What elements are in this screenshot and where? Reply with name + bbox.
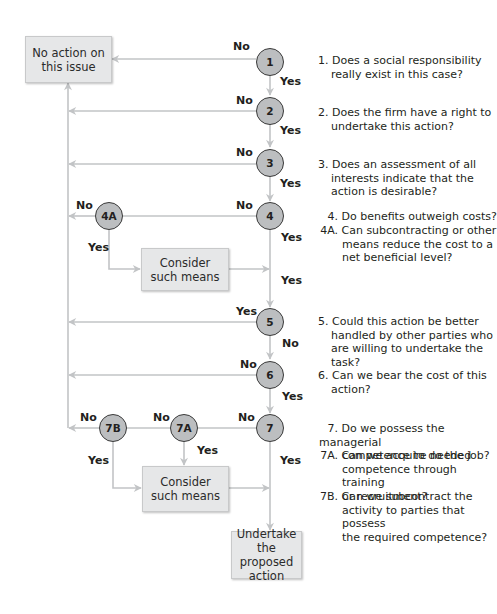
no-action-line-2: this issue bbox=[32, 60, 105, 74]
undertake-line-3: action bbox=[232, 569, 301, 583]
edge-label-3-yes: Yes bbox=[280, 177, 301, 190]
decision-node-5: 5 bbox=[256, 308, 284, 336]
edge-label-7b-no: No bbox=[80, 411, 97, 424]
decision-node-2: 2 bbox=[256, 97, 284, 125]
edge-label-3-no: No bbox=[236, 146, 253, 159]
question-7b: 7B. Can we subcontract the activity to p… bbox=[312, 490, 497, 544]
edge-label-6-yes: Yes bbox=[282, 390, 303, 403]
decision-node-1: 1 bbox=[256, 48, 284, 76]
edge-label-2-no: No bbox=[236, 94, 253, 107]
edge-label-5-no: No bbox=[282, 337, 299, 350]
no-action-box: No action on this issue bbox=[25, 36, 112, 83]
edge-label-7a-no: No bbox=[153, 411, 170, 424]
question-5: 5. Could this action be better handled b… bbox=[318, 315, 493, 369]
question-1: 1. Does a social responsibility really e… bbox=[318, 54, 482, 81]
edge-label-7a-yes: Yes bbox=[197, 444, 218, 457]
undertake-line-1: Undertake bbox=[232, 527, 301, 541]
decision-node-7: 7 bbox=[256, 414, 284, 442]
consider-means-box-2: Consider such means bbox=[142, 466, 229, 512]
decision-node-6: 6 bbox=[256, 361, 284, 389]
decision-node-4a: 4A bbox=[95, 202, 123, 230]
decision-node-7b: 7B bbox=[99, 414, 127, 442]
edge-label-2-yes: Yes bbox=[280, 124, 301, 137]
edge-label-4a-yes: Yes bbox=[88, 241, 109, 254]
question-6: 6. Can we bear the cost of this action? bbox=[318, 369, 487, 396]
question-4: 4. Do benefits outweigh costs? bbox=[319, 210, 497, 224]
edge-label-4-yes: Yes bbox=[281, 231, 302, 244]
edge-label-consider-1-yes: Yes bbox=[281, 274, 302, 287]
decision-node-3: 3 bbox=[256, 149, 284, 177]
undertake-line-2: the proposed bbox=[232, 541, 301, 569]
edge-label-1-yes: Yes bbox=[280, 75, 301, 88]
edge-label-1-no: No bbox=[233, 40, 250, 53]
question-4a: 4A. Can subcontracting or other means re… bbox=[312, 224, 496, 265]
no-action-line-1: No action on bbox=[32, 46, 105, 60]
edge-label-7b-yes: Yes bbox=[88, 454, 109, 467]
edge-label-7-no: No bbox=[238, 411, 255, 424]
edge-label-4a-no: No bbox=[76, 199, 93, 212]
decision-node-7a: 7A bbox=[170, 414, 198, 442]
question-2: 2. Does the firm have a right to underta… bbox=[318, 106, 491, 133]
consider-1-line-1: Consider bbox=[150, 256, 219, 270]
edge-label-4-no: No bbox=[236, 199, 253, 212]
consider-2-line-1: Consider bbox=[151, 475, 220, 489]
question-3: 3. Does an assessment of all interests i… bbox=[318, 158, 476, 199]
consider-1-line-2: such means bbox=[150, 270, 219, 284]
undertake-action-box: Undertake the proposed action bbox=[231, 531, 302, 579]
edge-label-7-yes: Yes bbox=[280, 454, 301, 467]
consider-means-box-1: Consider such means bbox=[141, 248, 229, 291]
edge-label-5-yes: Yes bbox=[236, 305, 257, 318]
edge-label-6-no: No bbox=[240, 358, 257, 371]
consider-2-line-2: such means bbox=[151, 489, 220, 503]
decision-node-4: 4 bbox=[256, 202, 284, 230]
